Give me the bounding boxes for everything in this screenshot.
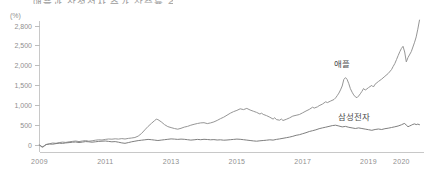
y-tick-label: 2,500: [14, 42, 32, 49]
y-tick-label: 0: [28, 142, 32, 149]
y-tick-label: 1,500: [14, 82, 32, 89]
y-tick-label: 2,000: [14, 62, 32, 69]
y-tick-label: 2,800: [14, 23, 32, 30]
samsung-series-label: 삼성전자: [338, 112, 370, 122]
x-tick-label: 2009: [31, 158, 48, 165]
y-axis-unit-label: (%): [10, 12, 21, 20]
x-tick-label: 2013: [163, 158, 180, 165]
x-tick-label: 2020: [393, 158, 410, 165]
stock-return-line-chart-figure: 애플과 삼성전자 주가 상승률 추이 (%)05001,0001,5002,00…: [0, 0, 424, 178]
x-tick-label: 2011: [97, 158, 113, 165]
x-tick-label: 2015: [229, 158, 246, 165]
apple-series-label: 애플: [334, 59, 350, 69]
x-tick-label: 2019: [360, 158, 377, 165]
samsung-series-line: [40, 123, 420, 146]
cropped-title-text: 애플과 삼성전자 주가 상승률 추이: [33, 0, 173, 4]
y-tick-label: 1,000: [14, 102, 32, 109]
x-tick-label: 2017: [294, 158, 311, 165]
line-chart: (%)05001,0001,5002,0002,5002,80020092011…: [0, 0, 424, 178]
cropped-title-strip: 애플과 삼성전자 주가 상승률 추이: [33, 0, 173, 4]
y-tick-label: 500: [20, 122, 32, 129]
